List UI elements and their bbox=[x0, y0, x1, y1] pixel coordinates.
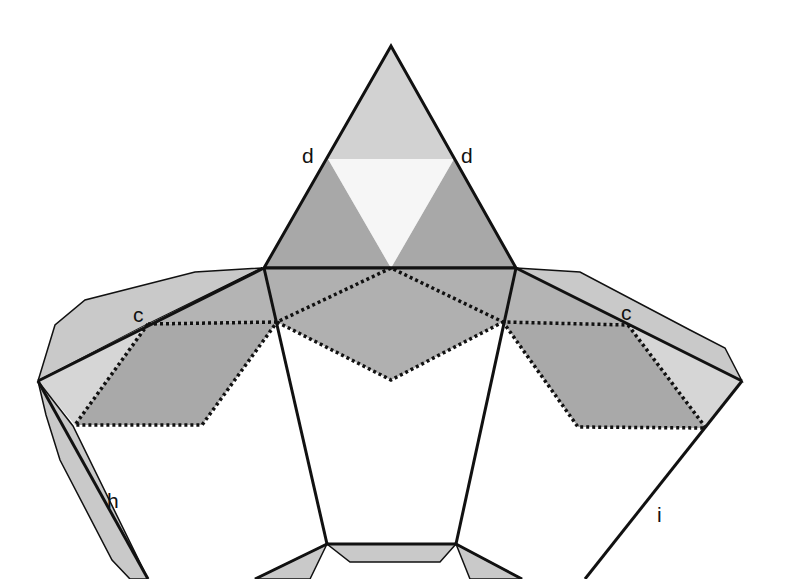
label-h: h bbox=[107, 489, 119, 512]
label-d-left: d bbox=[302, 144, 314, 167]
label-d-right: d bbox=[461, 144, 473, 167]
central-band-face bbox=[264, 268, 516, 380]
bottom-glue-flap-center bbox=[327, 544, 456, 562]
label-c-right: c bbox=[621, 301, 632, 324]
label-i: i bbox=[657, 503, 662, 526]
polyhedron-net-diagram: d d c c h i bbox=[0, 0, 790, 579]
label-c-left: c bbox=[133, 303, 144, 326]
